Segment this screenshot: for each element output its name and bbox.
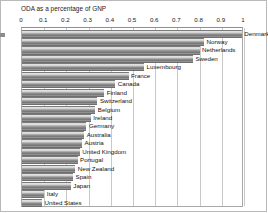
bar-label: Switzerland bbox=[100, 97, 132, 105]
bar bbox=[22, 148, 80, 156]
bar-label: Ireland bbox=[93, 114, 112, 122]
bar-row: Ireland bbox=[22, 114, 244, 122]
bar bbox=[22, 89, 104, 97]
bar-label: Denmark bbox=[244, 30, 268, 38]
bar-row: Austria bbox=[22, 139, 244, 147]
bar-row: France bbox=[22, 72, 244, 80]
bar bbox=[22, 63, 144, 71]
bar-label: Sweden bbox=[195, 55, 217, 63]
bar-row: Switzerland bbox=[22, 97, 244, 105]
bar bbox=[22, 156, 78, 164]
x-axis-tick-label: 0.5 bbox=[128, 16, 137, 23]
bar-label: France bbox=[131, 72, 150, 80]
bar-label: Japan bbox=[73, 182, 90, 190]
x-axis-tick-label: 0.8 bbox=[194, 16, 203, 23]
bar-row: Denmark bbox=[22, 30, 244, 38]
chart-title: ODA as a percentage of GNP bbox=[21, 5, 106, 12]
left-edge-marker bbox=[0, 33, 5, 37]
bar-label: Austria bbox=[84, 139, 103, 147]
bar-row: Luxembourg bbox=[22, 63, 244, 71]
bar bbox=[22, 38, 204, 46]
bar-label: Luxembourg bbox=[147, 63, 181, 71]
bar-label: Belgium bbox=[98, 106, 120, 114]
bar bbox=[22, 80, 115, 88]
bar-label: New Zealand bbox=[78, 165, 114, 173]
bar-row: United Kingdom bbox=[22, 148, 244, 156]
bars-layer: DenmarkNorwayNetherlandsSwedenLuxembourg… bbox=[22, 28, 242, 206]
bar-row: Norway bbox=[22, 38, 244, 46]
bar bbox=[22, 72, 129, 80]
chart-container: ODA as a percentage of GNP 00.10.20.30.4… bbox=[0, 0, 268, 213]
x-axis-tick-label: 0.3 bbox=[83, 16, 92, 23]
bar-label: Netherlands bbox=[202, 46, 235, 54]
x-axis-tick-label: 1 bbox=[241, 16, 244, 23]
bar-row: Japan bbox=[22, 182, 244, 190]
bar-row: Sweden bbox=[22, 55, 244, 63]
bar bbox=[22, 114, 91, 122]
bar-label: Canada bbox=[118, 80, 140, 88]
bar-row: Belgium bbox=[22, 106, 244, 114]
bar bbox=[22, 182, 71, 190]
x-axis-tick-label: 0.7 bbox=[172, 16, 181, 23]
bar-row: Italy bbox=[22, 190, 244, 198]
bar bbox=[22, 106, 95, 114]
bar-label: United States bbox=[44, 199, 81, 207]
x-axis-tick-labels: 00.10.20.30.40.50.60.70.80.91 bbox=[0, 16, 268, 26]
bar-row: Spain bbox=[22, 173, 244, 181]
bar-label: Norway bbox=[207, 38, 228, 46]
plot-area: DenmarkNorwayNetherlandsSwedenLuxembourg… bbox=[21, 27, 243, 207]
bar-row: Portugal bbox=[22, 156, 244, 164]
x-axis-tick-label: 0.4 bbox=[105, 16, 114, 23]
bar-row: Netherlands bbox=[22, 46, 244, 54]
gridline bbox=[244, 28, 245, 206]
bar-row: United States bbox=[22, 199, 244, 207]
bar-row: Canada bbox=[22, 80, 244, 88]
bar bbox=[22, 139, 82, 147]
bar bbox=[22, 199, 42, 207]
bar bbox=[22, 30, 242, 38]
bar-label: Australia bbox=[87, 131, 111, 139]
bar-row: Germany bbox=[22, 122, 244, 130]
bar-label: United Kingdom bbox=[82, 148, 126, 156]
bar bbox=[22, 55, 193, 63]
x-axis-tick-label: 0.9 bbox=[216, 16, 225, 23]
bar bbox=[22, 122, 86, 130]
x-axis-tick-label: 0.1 bbox=[39, 16, 48, 23]
bar-label: Italy bbox=[47, 190, 58, 198]
bar-label: Germany bbox=[89, 122, 114, 130]
x-axis-tick-label: 0.2 bbox=[61, 16, 70, 23]
bar-row: New Zealand bbox=[22, 165, 244, 173]
x-axis-tick-label: 0.6 bbox=[150, 16, 159, 23]
bar bbox=[22, 165, 75, 173]
bar-row: Australia bbox=[22, 131, 244, 139]
bar-label: Portugal bbox=[80, 156, 103, 164]
bar-label: Finland bbox=[107, 89, 127, 97]
bar-label: Spain bbox=[76, 173, 92, 181]
bar bbox=[22, 131, 84, 139]
bar bbox=[22, 46, 200, 54]
bar-row: Finland bbox=[22, 89, 244, 97]
x-axis-tick-label: 0 bbox=[19, 16, 22, 23]
bar bbox=[22, 173, 73, 181]
bar bbox=[22, 97, 97, 105]
bar bbox=[22, 190, 44, 198]
